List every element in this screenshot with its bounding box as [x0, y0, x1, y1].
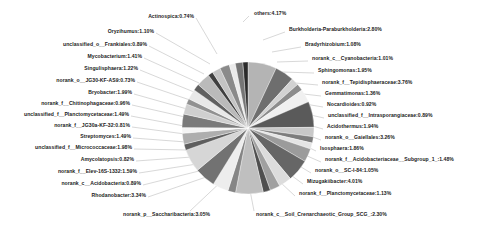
pie-slice-label: norank_f__Elev-16S-1332:1.59%: [0, 168, 139, 174]
pie-slice-label: Oryzihumus:1.10%: [0, 28, 156, 34]
label-leader-line: [132, 105, 185, 117]
label-leader-line: [277, 61, 308, 62]
pie-chart-svg: [0, 0, 495, 239]
pie-slice-label: norank_f__Acidobacteriaceae__Subgroup_1_…: [325, 156, 454, 162]
pie-slice-label: Gemmatimonas:1.36%: [325, 90, 380, 96]
label-leader-line: [263, 32, 285, 40]
pie-slice-label: Singulisphaera:1.22%: [0, 65, 140, 71]
label-leader-line: [133, 138, 186, 142]
label-leader-line: [144, 58, 199, 83]
pie-slice-label: Rhodanobacter:3.34%: [0, 192, 148, 198]
label-leader-line: [156, 33, 210, 64]
pie-slice-label: unclassified_f__Intrasporangiaceae:0.89%: [328, 112, 433, 118]
label-leader-line: [140, 70, 194, 92]
pie-slice-label: others:4.17%: [254, 10, 286, 16]
label-leader-line: [243, 16, 249, 22]
pie-slice-label: Mycobacterium:1.41%: [0, 53, 144, 59]
pie-slice-label: norank_o__JG30-KF-AS9:0.73%: [0, 77, 137, 83]
label-leader-line: [149, 46, 204, 74]
pie-slice-label: norank_o__SC-I-84:1.05%: [315, 167, 378, 173]
pie-slice-label: norank_c__Acidobacteria:0.89%: [0, 180, 143, 186]
label-leader-line: [131, 116, 184, 126]
label-leader-line: [196, 18, 217, 54]
pie-slice-label: norank_c__Soil_Crenarchaeotic_Group_SCG_…: [256, 211, 387, 217]
pie-slice-label: Actinospica:0.74%: [0, 13, 196, 19]
pie-slice-label: Bradyrhizobium:1.08%: [305, 41, 361, 47]
pie-slice-label: Mizugakiibacter:4.01%: [307, 178, 362, 184]
pie-slice-label: norank_c__Cyanobacteria:1.01%: [312, 55, 393, 61]
label-leader-line: [148, 175, 212, 197]
pie-slice-label: Burkholderia-Paraburkholderia:2.80%: [289, 26, 382, 32]
pie-slice-label: norank_f__Planctomycetaceae:1.13%: [299, 190, 391, 196]
pie-slices-group: [182, 62, 314, 194]
pie-slice-label: unclassified_f__Micrococcaceae:1.98%: [0, 144, 134, 150]
pie-slice-label: norank_f__Tepidisphaeraceae:3.76%: [322, 79, 412, 85]
label-leader-line: [139, 164, 197, 173]
label-leader-line: [143, 170, 203, 185]
pie-slice-label: norank_p__Saccharibacteria:3.05%: [123, 211, 210, 217]
label-leader-line: [272, 47, 301, 52]
pie-slice-label: norank_o__Gaiellales:3.26%: [325, 134, 395, 140]
pie-slice-label: Amycolatopsis:0.82%: [0, 156, 136, 162]
pie-slice-label: Sphingomonas:1.95%: [318, 67, 372, 73]
pie-chart-figure: others:4.17%Burkholderia-Paraburkholderi…: [0, 0, 495, 239]
pie-slice-label: norank_f__JG30a-KF-32:0.81%: [0, 122, 132, 128]
pie-slice-label: Bryobacter:1.99%: [0, 89, 134, 95]
label-leader-line: [281, 72, 314, 73]
pie-slice-label: norank_f__Chitinophagaceae:0.96%: [0, 100, 132, 106]
pie-slice-label: Nocardioides:0.92%: [327, 101, 376, 107]
pie-slice-label: unclassified_f__Planctomycetaceae:1.49%: [0, 111, 131, 117]
pie-slice-label: Isosphaera:1.86%: [320, 145, 364, 151]
label-leader-line: [134, 149, 188, 150]
label-leader-line: [136, 157, 192, 161]
pie-slice-label: Acidothermus:1.94%: [327, 123, 378, 129]
label-leader-line: [132, 127, 185, 134]
pie-slice-label: unclassified_o__Frankiales:0.89%: [0, 41, 149, 47]
pie-slice-label: Streptomyces:1.49%: [0, 133, 133, 139]
